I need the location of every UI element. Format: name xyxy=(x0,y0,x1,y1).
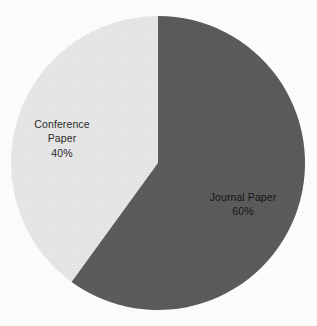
pie-label-conference-paper: Conference Paper 40% xyxy=(14,117,110,160)
conference-label-line-1: Conference xyxy=(14,117,110,131)
pie-label-journal-paper: Journal Paper 60% xyxy=(191,190,295,219)
conference-label-percent: 40% xyxy=(14,146,110,160)
pie-chart-figure: Conference Paper 40% Journal Paper 60% xyxy=(0,0,317,326)
journal-label-percent: 60% xyxy=(191,204,295,218)
conference-label-line-2: Paper xyxy=(14,131,110,145)
journal-label-line-1: Journal Paper xyxy=(191,190,295,204)
pie-chart-graphic xyxy=(0,0,317,326)
